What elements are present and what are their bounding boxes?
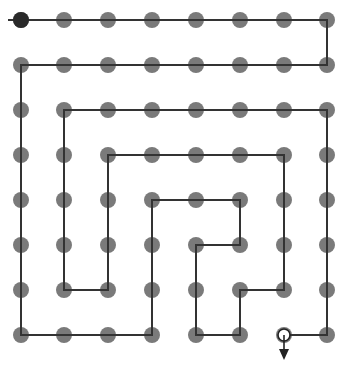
- grid-dots: [13, 12, 335, 343]
- grid-path-diagram: [0, 0, 343, 369]
- end-marker: [278, 329, 290, 360]
- start-dot: [13, 12, 29, 28]
- down-arrow-icon: [279, 349, 289, 360]
